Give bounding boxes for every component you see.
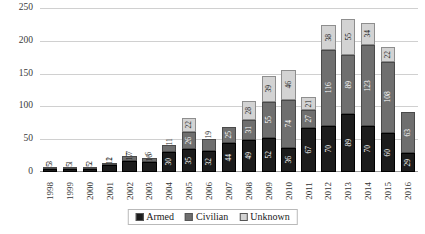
bar-segment-armed[interactable]: 32 <box>202 151 216 172</box>
bar-value-label: 67 <box>305 146 313 154</box>
bar-segment-armed[interactable]: 70 <box>321 126 335 172</box>
bar-segment-unknown[interactable]: 38 <box>321 25 335 50</box>
bar-column[interactable]: 558989 <box>338 8 358 172</box>
x-axis-label: 2006 <box>204 182 214 200</box>
bar-column[interactable]: 395552 <box>259 8 279 172</box>
bar-value-label: 5 <box>46 163 54 167</box>
bar-column[interactable]: 222635 <box>179 8 199 172</box>
bar-stack: 1932 <box>202 139 216 172</box>
bar-column[interactable]: 35 <box>40 8 60 172</box>
chart-legend: ArmedCivilianUnknown <box>127 209 297 225</box>
bar-segment-unknown[interactable]: 22 <box>381 47 395 61</box>
bar-segment-armed[interactable]: 5 <box>43 169 57 172</box>
bar-stack: 15 <box>63 167 77 172</box>
bar-segment-armed[interactable]: 5 <box>63 169 77 172</box>
bar-segment-armed[interactable]: 29 <box>401 153 415 172</box>
bar-segment-unknown[interactable]: 39 <box>262 76 276 102</box>
legend-item-civilian[interactable]: Civilian <box>185 212 228 222</box>
x-axis-label-cell: 2004 <box>159 174 179 208</box>
bar-stack: 717 <box>122 156 136 172</box>
bar-segment-armed[interactable]: 5 <box>83 169 97 172</box>
bar-segment-civilian[interactable]: 89 <box>341 55 355 113</box>
bar-segment-armed[interactable]: 60 <box>381 133 395 172</box>
bar-segment-armed[interactable]: 17 <box>122 161 136 172</box>
bar-column[interactable]: 3412370 <box>358 8 378 172</box>
bar-segment-armed[interactable]: 11 <box>102 165 116 172</box>
bar-value-label: 55 <box>345 33 353 41</box>
bar-segment-armed[interactable]: 16 <box>142 162 156 172</box>
bar-segment-civilian[interactable]: 55 <box>262 102 276 138</box>
bar-column[interactable]: 211 <box>100 8 120 172</box>
bar-segment-armed[interactable]: 70 <box>361 126 375 172</box>
bar-segment-civilian[interactable]: 11 <box>162 145 176 152</box>
bar-value-label: 89 <box>345 139 353 147</box>
x-axis-label: 2009 <box>264 182 274 200</box>
bar-value-label: 35 <box>185 157 193 165</box>
x-axis-label-cell: 2006 <box>199 174 219 208</box>
bar-column[interactable]: 616 <box>139 8 159 172</box>
bar-column[interactable]: 717 <box>120 8 140 172</box>
bar-segment-armed[interactable]: 35 <box>182 149 196 172</box>
bar-segment-armed[interactable]: 36 <box>281 148 295 172</box>
bar-segment-civilian[interactable]: 19 <box>202 139 216 151</box>
bar-segment-civilian[interactable]: 116 <box>321 50 335 126</box>
bar-stack: 35 <box>43 167 57 172</box>
legend-swatch-icon <box>185 213 193 221</box>
bar-stack: 3811670 <box>321 25 335 172</box>
x-axis-label: 1999 <box>65 182 75 200</box>
bar-column[interactable]: 6329 <box>398 8 418 172</box>
x-axis-label-cell: 1998 <box>40 174 60 208</box>
bar-segment-civilian[interactable]: 31 <box>242 120 256 140</box>
x-axis-label-cell: 2008 <box>239 174 259 208</box>
bar-segment-armed[interactable]: 49 <box>242 140 256 172</box>
legend-item-unknown[interactable]: Unknown <box>239 212 289 222</box>
bar-segment-civilian[interactable]: 27 <box>301 110 315 128</box>
bar-segment-civilian[interactable]: 25 <box>222 127 236 143</box>
bar-segment-unknown[interactable]: 21 <box>301 97 315 111</box>
bar-value-label: 34 <box>364 30 372 38</box>
bar-segment-civilian[interactable]: 108 <box>381 62 395 133</box>
x-axis-label: 2002 <box>125 182 135 200</box>
bar-stack: 283149 <box>242 101 256 172</box>
bar-column[interactable]: 25 <box>80 8 100 172</box>
bar-segment-armed[interactable]: 67 <box>301 128 315 172</box>
bar-column[interactable]: 3811670 <box>318 8 338 172</box>
bar-column[interactable]: 283149 <box>239 8 259 172</box>
legend-swatch-icon <box>239 213 247 221</box>
bar-column[interactable]: 212767 <box>299 8 319 172</box>
bar-segment-unknown[interactable]: 28 <box>242 101 256 119</box>
y-axis-tick-label: 0 <box>0 167 33 177</box>
legend-label: Armed <box>146 212 174 222</box>
x-axis-label-cell: 2013 <box>338 174 358 208</box>
bar-segment-civilian[interactable]: 26 <box>182 132 196 149</box>
bar-segment-unknown[interactable]: 34 <box>361 23 375 45</box>
legend-item-armed[interactable]: Armed <box>135 212 174 222</box>
bar-value-label: 63 <box>404 129 412 137</box>
x-axis-label: 2015 <box>383 182 393 200</box>
bar-column[interactable]: 15 <box>60 8 80 172</box>
bar-column[interactable]: 2210860 <box>378 8 398 172</box>
bar-column[interactable]: 1932 <box>199 8 219 172</box>
bar-segment-armed[interactable]: 89 <box>341 114 355 172</box>
x-axis-label: 2013 <box>343 182 353 200</box>
y-axis-tick-label: 100 <box>0 101 33 111</box>
bar-column[interactable]: 467436 <box>279 8 299 172</box>
bar-segment-armed[interactable]: 44 <box>222 143 236 172</box>
x-axis-label: 2007 <box>224 182 234 200</box>
bar-segment-armed[interactable]: 30 <box>162 152 176 172</box>
bar-value-label: 60 <box>384 149 392 157</box>
bar-stack: 3412370 <box>361 23 375 172</box>
bar-segment-civilian[interactable]: 63 <box>401 112 415 153</box>
bar-segment-armed[interactable]: 52 <box>262 138 276 172</box>
bar-column[interactable]: 2544 <box>219 8 239 172</box>
bar-segment-unknown[interactable]: 22 <box>182 118 196 132</box>
bar-segment-civilian[interactable]: 123 <box>361 45 375 126</box>
legend-label: Civilian <box>196 212 228 222</box>
bar-column[interactable]: 1130 <box>159 8 179 172</box>
bar-segment-civilian[interactable]: 74 <box>281 100 295 149</box>
bar-segment-unknown[interactable]: 46 <box>281 70 295 100</box>
bar-segment-unknown[interactable]: 55 <box>341 19 355 55</box>
bar-value-label: 32 <box>205 158 213 166</box>
bar-value-label: 19 <box>205 131 213 139</box>
bar-value-label: 123 <box>364 80 372 91</box>
